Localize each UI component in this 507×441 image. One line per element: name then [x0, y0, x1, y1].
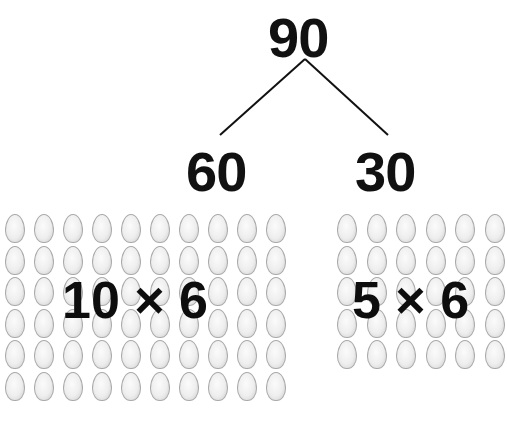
branch-right [305, 59, 388, 135]
egg-icon [150, 214, 170, 243]
egg-icon [63, 372, 83, 401]
egg-icon [208, 214, 228, 243]
egg-icon [34, 309, 54, 338]
egg-icon [485, 277, 505, 306]
egg-icon [426, 214, 446, 243]
egg-icon [92, 372, 112, 401]
egg-icon [150, 340, 170, 369]
egg-icon [34, 214, 54, 243]
egg-icon [485, 309, 505, 338]
right-child-number: 30 [355, 144, 415, 200]
egg-icon [337, 340, 357, 369]
egg-icon [208, 246, 228, 275]
egg-icon [237, 372, 257, 401]
egg-icon [455, 340, 475, 369]
egg-icon [266, 372, 286, 401]
egg-icon [121, 340, 141, 369]
egg-icon [237, 340, 257, 369]
egg-icon [121, 214, 141, 243]
egg-icon [179, 340, 199, 369]
egg-icon [5, 277, 25, 306]
left-array-label: 10 × 6 [62, 274, 208, 326]
egg-icon [34, 246, 54, 275]
right-array-label: 5 × 6 [352, 274, 469, 326]
egg-icon [208, 277, 228, 306]
egg-icon [337, 214, 357, 243]
egg-icon [208, 309, 228, 338]
egg-icon [34, 372, 54, 401]
egg-icon [5, 246, 25, 275]
egg-icon [5, 372, 25, 401]
egg-icon [396, 340, 416, 369]
egg-icon [63, 340, 83, 369]
egg-icon [5, 340, 25, 369]
egg-icon [426, 340, 446, 369]
egg-icon [485, 214, 505, 243]
egg-icon [34, 340, 54, 369]
left-child-number: 60 [186, 144, 246, 200]
egg-icon [237, 277, 257, 306]
egg-icon [266, 277, 286, 306]
egg-icon [237, 214, 257, 243]
egg-icon [92, 214, 112, 243]
egg-icon [179, 372, 199, 401]
egg-icon [367, 340, 387, 369]
egg-icon [179, 214, 199, 243]
egg-icon [237, 309, 257, 338]
egg-icon [485, 246, 505, 275]
egg-icon [150, 372, 170, 401]
egg-icon [5, 309, 25, 338]
root-number: 90 [268, 10, 328, 66]
egg-icon [208, 340, 228, 369]
egg-icon [121, 372, 141, 401]
egg-icon [367, 214, 387, 243]
egg-icon [92, 340, 112, 369]
egg-icon [34, 277, 54, 306]
egg-icon [208, 372, 228, 401]
egg-icon [396, 214, 416, 243]
egg-icon [266, 340, 286, 369]
egg-icon [237, 246, 257, 275]
egg-icon [266, 214, 286, 243]
egg-icon [266, 246, 286, 275]
egg-icon [266, 309, 286, 338]
egg-icon [455, 214, 475, 243]
branch-left [220, 59, 305, 135]
egg-icon [5, 214, 25, 243]
egg-icon [485, 340, 505, 369]
egg-icon [63, 214, 83, 243]
